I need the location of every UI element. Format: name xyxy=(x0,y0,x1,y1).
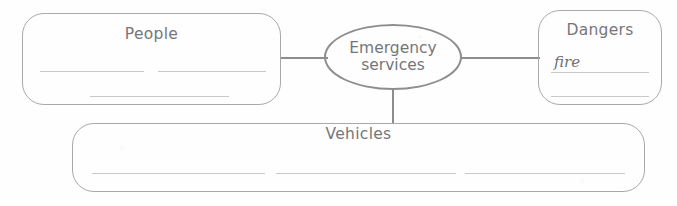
answer-line-vehicles-3[interactable] xyxy=(465,173,625,174)
answer-line-vehicles-1[interactable] xyxy=(92,173,265,174)
answer-line-vehicles-2[interactable] xyxy=(276,173,456,174)
connector-center-to-dangers xyxy=(460,57,540,59)
concept-box-people-title: People xyxy=(22,26,281,43)
connector-center-to-vehicles xyxy=(392,88,394,124)
concept-center-label: Emergency services xyxy=(324,40,462,75)
worksheet-canvas: People Emergency services Dangers fire V… xyxy=(0,0,677,206)
answer-line-people-3[interactable] xyxy=(90,96,229,97)
answer-text-dangers-1: fire xyxy=(554,53,580,71)
concept-box-vehicles-title: Vehicles xyxy=(72,126,645,143)
answer-line-people-2[interactable] xyxy=(158,71,266,72)
answer-line-dangers-2[interactable] xyxy=(551,96,649,97)
answer-line-dangers-1[interactable] xyxy=(551,72,649,73)
concept-box-dangers-title: Dangers xyxy=(538,22,662,39)
connector-people-to-center xyxy=(280,57,328,59)
answer-line-people-1[interactable] xyxy=(40,71,144,72)
